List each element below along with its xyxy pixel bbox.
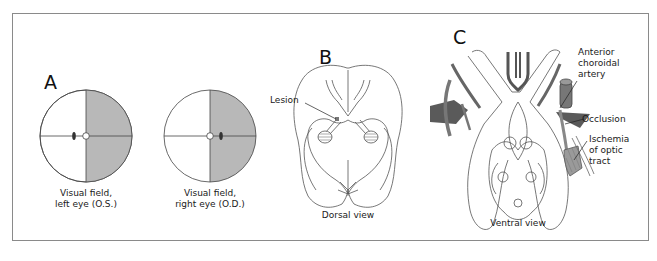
ischemia-label-line1: Ischemia [589,134,629,145]
ischemia-label-line2: of optic [589,145,623,156]
caption-right-eye-line1: Visual field, [172,188,248,199]
brainstem-ventral-diagram [430,50,594,230]
artery-label-line3: artery [578,69,605,80]
occlusion-label: Occlusion [582,114,626,125]
artery-label-line1: Anterior [578,47,614,58]
visual-field-right-eye [164,90,256,182]
lesion-label: Lesion [270,95,299,106]
panel-c-letter: C [453,27,466,47]
dorsal-view-caption: Dorsal view [318,210,378,221]
caption-right-eye-line2: right eye (O.D.) [172,199,248,210]
brain-dorsal-diagram [294,65,402,207]
ischemia-label-line3: tract [589,156,610,167]
visual-field-left-eye [40,90,132,182]
caption-left-eye-line1: Visual field, [50,188,122,199]
artery-label-line2: choroidal [578,58,619,69]
ventral-view-caption: Ventral view [478,218,558,229]
caption-left-eye-line2: left eye (O.S.) [50,199,122,210]
panel-b-letter: B [319,47,332,67]
panel-a-letter: A [44,72,57,92]
figure-artwork [0,0,657,261]
